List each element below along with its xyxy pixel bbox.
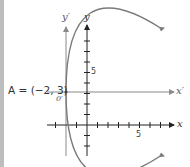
- origin-prime-label: 0′: [56, 95, 63, 103]
- x-axis-label: x: [177, 119, 183, 129]
- y-axis-label: y: [84, 12, 90, 22]
- parabola-curve: [66, 8, 162, 167]
- x-tick-label-5: 5: [136, 131, 141, 139]
- y-tick-label-5: 5: [91, 68, 96, 76]
- x-prime-axis-label: x′: [176, 86, 184, 96]
- y-prime-axis-label: y′: [62, 12, 70, 22]
